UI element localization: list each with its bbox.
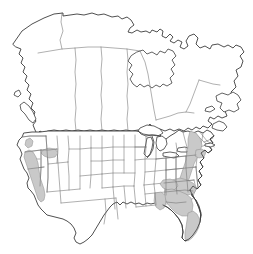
north-america-map [0, 0, 253, 254]
canada-outline [13, 13, 244, 134]
nova-scotia-island [212, 121, 227, 131]
distribution-map-figure: North America distribution map United St… [0, 0, 253, 254]
queen-charlotte-islands [14, 90, 21, 97]
canada-landmass-group [13, 13, 244, 134]
